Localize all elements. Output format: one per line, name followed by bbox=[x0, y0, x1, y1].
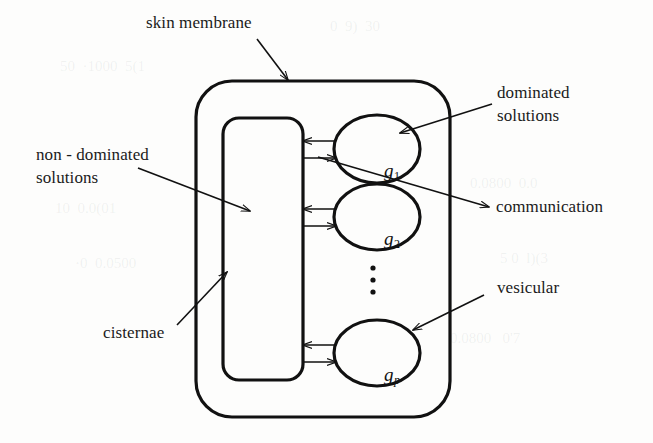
label-communication: communication bbox=[496, 196, 603, 217]
label-skin-membrane: skin membrane bbox=[146, 12, 252, 33]
ellipsis-dot bbox=[370, 289, 375, 294]
leader-skin-membrane bbox=[257, 39, 288, 80]
label-cisternae: cisternae bbox=[103, 322, 164, 343]
leader-dominated-solutions bbox=[400, 104, 492, 133]
diagram-vector-layer bbox=[0, 0, 653, 443]
leader-communication bbox=[318, 157, 489, 207]
vesicle-label-gp: gp bbox=[365, 342, 400, 410]
vesicle-label-g2-sub: 2 bbox=[394, 237, 401, 251]
vesicle-label-g2: g2 bbox=[365, 206, 400, 274]
vesicle-label-g2-base: g bbox=[384, 228, 394, 249]
cisternae-shape bbox=[223, 118, 303, 380]
leader-non-dominated-solutions bbox=[138, 168, 250, 211]
vesicle-label-g1-sub: 1 bbox=[394, 169, 401, 183]
vesicle-label-gp-sub: p bbox=[394, 373, 401, 387]
label-non-dominated-solutions-line1: non - dominated bbox=[36, 144, 149, 165]
label-non-dominated-solutions-line2: solutions bbox=[36, 167, 98, 188]
diagram-canvas: 50 ·1000 5(1 0 9) 30 0.0800 0.0 10 0.0(0… bbox=[0, 0, 653, 443]
leader-cisternae bbox=[177, 272, 227, 325]
label-vesicular: vesicular bbox=[497, 277, 559, 298]
vesicle-label-g1-base: g bbox=[384, 160, 394, 181]
label-dominated-solutions-line1: dominated bbox=[497, 82, 570, 103]
vesicle-label-g1: g1 bbox=[365, 138, 400, 206]
vesicle-label-gp-base: g bbox=[384, 364, 394, 385]
ellipsis-dot bbox=[370, 277, 375, 282]
label-dominated-solutions-line2: solutions bbox=[497, 105, 559, 126]
